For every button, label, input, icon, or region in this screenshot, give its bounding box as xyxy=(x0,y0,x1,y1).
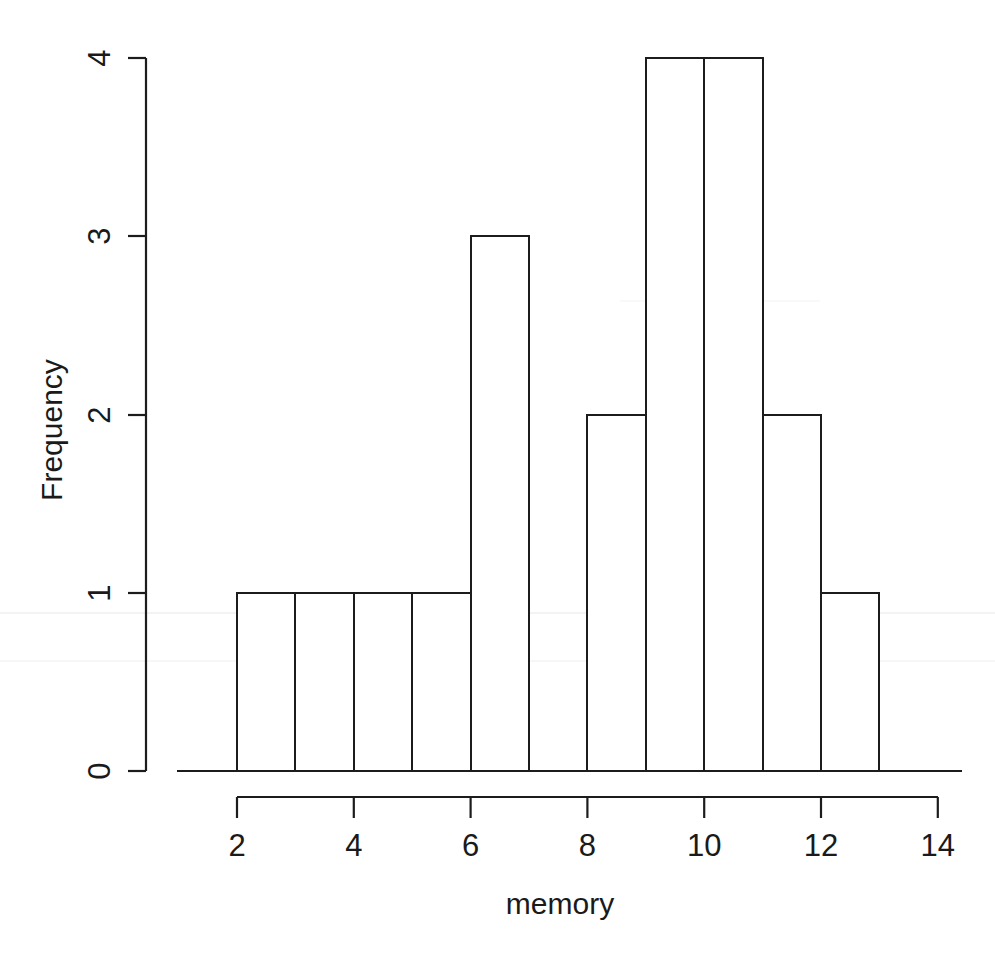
y-tick-label-0: 0 xyxy=(82,762,117,779)
histogram-bars xyxy=(237,58,879,771)
x-tick-label-10: 10 xyxy=(687,828,721,863)
y-axis-ticks xyxy=(128,58,146,771)
x-tick-label-2: 2 xyxy=(228,828,245,863)
histogram-figure: Frequency 0 1 2 3 4 xyxy=(0,0,995,958)
y-axis-title: Frequency xyxy=(35,359,68,501)
x-axis-tick-labels: 2 4 6 8 10 12 14 xyxy=(228,828,955,863)
bar-10-11 xyxy=(704,58,762,771)
y-tick-label-1: 1 xyxy=(82,584,117,601)
bar-11-12 xyxy=(763,415,821,771)
histogram-plot: Frequency 0 1 2 3 4 xyxy=(0,0,995,958)
bar-6-7 xyxy=(471,236,529,771)
bar-12-13 xyxy=(821,593,879,771)
y-axis-tick-labels: 0 1 2 3 4 xyxy=(82,49,117,779)
bar-8-9 xyxy=(587,415,645,771)
y-tick-label-3: 3 xyxy=(82,227,117,244)
y-tick-label-4: 4 xyxy=(82,49,117,66)
bar-9-10 xyxy=(646,58,704,771)
x-tick-label-12: 12 xyxy=(804,828,838,863)
x-tick-label-6: 6 xyxy=(462,828,479,863)
bar-3-4 xyxy=(295,593,353,771)
bar-5-6 xyxy=(412,593,470,771)
x-axis-title: memory xyxy=(506,887,614,920)
x-axis-ticks xyxy=(237,797,938,818)
x-tick-label-4: 4 xyxy=(345,828,362,863)
bar-4-5 xyxy=(354,593,412,771)
x-tick-label-14: 14 xyxy=(921,828,955,863)
x-tick-label-8: 8 xyxy=(579,828,596,863)
bar-2-3 xyxy=(237,593,295,771)
y-tick-label-2: 2 xyxy=(82,406,117,423)
